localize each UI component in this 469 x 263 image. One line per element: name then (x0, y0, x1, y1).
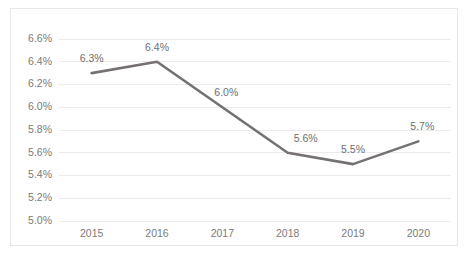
data-point-label: 6.4% (145, 41, 169, 53)
data-series-line (92, 62, 419, 164)
y-axis-tick-label: 6.4% (28, 55, 52, 67)
x-axis-tick-label: 2018 (276, 227, 300, 239)
y-axis-tick-label: 6.2% (28, 77, 52, 89)
line-chart-plot: 5.0%5.2%5.4%5.6%5.8%6.0%6.2%6.4%6.6% 201… (11, 9, 459, 247)
data-point-label: 5.5% (341, 143, 365, 155)
y-axis-tick-label: 6.6% (28, 32, 52, 44)
x-axis-tick-label: 2016 (145, 227, 169, 239)
data-point-labels: 6.3%6.4%6.0%5.6%5.5%5.7% (80, 41, 435, 155)
y-axis-tick-label: 6.0% (28, 100, 52, 112)
y-axis-tick-label: 5.6% (28, 146, 52, 158)
x-axis-tick-label: 2015 (80, 227, 104, 239)
y-axis-tick-label: 5.8% (28, 123, 52, 135)
x-axis-tick-labels: 201520162017201820192020 (80, 227, 430, 239)
data-point-label: 5.6% (294, 132, 318, 144)
data-point-label: 6.3% (80, 52, 104, 64)
x-axis-tick-label: 2017 (211, 227, 235, 239)
chart-container: 5.0%5.2%5.4%5.6%5.8%6.0%6.2%6.4%6.6% 201… (10, 8, 458, 246)
data-point-label: 5.7% (410, 120, 434, 132)
y-axis-tick-label: 5.4% (28, 168, 52, 180)
x-axis-tick-label: 2020 (407, 227, 431, 239)
y-axis-tick-label: 5.2% (28, 191, 52, 203)
y-axis-tick-label: 5.0% (28, 214, 52, 226)
y-axis-tick-labels: 5.0%5.2%5.4%5.6%5.8%6.0%6.2%6.4%6.6% (28, 32, 52, 226)
x-axis-tick-label: 2019 (341, 227, 365, 239)
data-point-label: 6.0% (214, 86, 238, 98)
